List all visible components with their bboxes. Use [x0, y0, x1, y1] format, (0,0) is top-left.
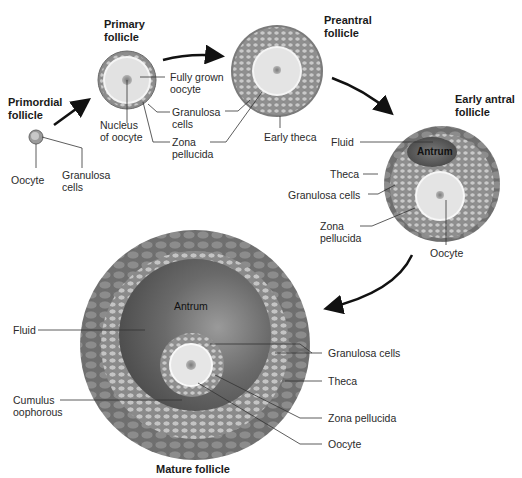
preantral-follicle — [210, 25, 323, 142]
label-granulosa-cells-mature: Granulosa cells — [328, 347, 400, 359]
label-fluid-mature: Fluid — [13, 324, 36, 336]
label-cumulus-oophorous: Cumulus oophorous — [13, 394, 63, 418]
label-oocyte-primordial: Oocyte — [11, 174, 44, 186]
early-antral-follicle — [360, 126, 500, 245]
mature-follicle — [38, 230, 322, 460]
primordial-follicle — [29, 130, 82, 168]
label-early-theca: Early theca — [264, 131, 317, 143]
label-oocyte-early: Oocyte — [430, 247, 463, 259]
title-primary-follicle: Primary follicle — [104, 18, 145, 44]
title-primordial-follicle: Primordial follicle — [8, 96, 62, 122]
label-zona-pellucida-early: Zona pellucida — [320, 220, 361, 244]
label-granulosa-cells-primordial: Granulosa cells — [62, 169, 110, 193]
label-theca-mature: Theca — [328, 375, 357, 387]
arrow-early-antral-to-mature — [328, 255, 412, 308]
arrow-preantral-to-early-antral — [332, 78, 390, 112]
title-preantral-follicle: Preantral follicle — [324, 14, 372, 40]
title-mature-follicle: Mature follicle — [156, 463, 230, 476]
label-antrum-mature: Antrum — [174, 300, 208, 312]
label-granulosa-cells-early: Granulosa cells — [288, 189, 360, 201]
follicle-development-diagram: Primordial follicle Oocyte Granulosa cel… — [0, 0, 522, 478]
label-nucleus-of-oocyte: Nucleus of oocyte — [100, 119, 143, 143]
label-fluid-early: Fluid — [331, 136, 354, 148]
label-granulosa-cells-primary: Granulosa cells — [172, 106, 220, 130]
label-zona-pellucida-mature: Zona pellucida — [328, 412, 396, 424]
diagram-graphics — [0, 0, 522, 478]
label-zona-pellucida-primary: Zona pellucida — [172, 136, 213, 160]
title-early-antral-follicle: Early antral follicle — [455, 93, 515, 119]
label-oocyte-mature: Oocyte — [328, 438, 361, 450]
label-fully-grown-oocyte: Fully grown oocyte — [170, 71, 224, 95]
arrow-primary-to-preantral — [163, 55, 220, 60]
label-theca-early: Theca — [330, 168, 359, 180]
label-antrum-early: Antrum — [417, 146, 453, 158]
